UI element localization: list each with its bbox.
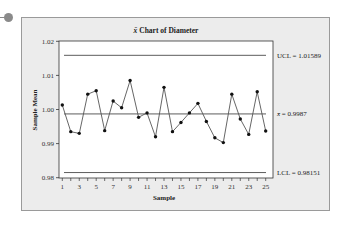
x-tick-label: 13 — [161, 183, 169, 191]
data-point — [95, 89, 98, 92]
data-point — [213, 136, 216, 139]
xbar-chart: x̄ Chart of Diameter 0.980.991.001.011.0… — [0, 0, 347, 225]
y-tick-label: 0.99 — [42, 140, 55, 148]
plot-area — [59, 41, 273, 178]
data-point — [137, 116, 140, 119]
x-tick-label: 7 — [111, 183, 115, 191]
data-point — [61, 103, 64, 106]
data-point — [188, 111, 191, 114]
xbar-symbol: x̄ — [133, 26, 138, 35]
x-tick-label: 5 — [94, 183, 98, 191]
y-axis: 0.980.991.001.011.02 — [42, 38, 59, 182]
x-tick-label: 3 — [78, 183, 82, 191]
x-tick-label: 9 — [128, 183, 132, 191]
x-tick-label: 17 — [194, 183, 202, 191]
data-point — [179, 121, 182, 124]
data-point — [111, 99, 114, 102]
data-point — [86, 92, 89, 95]
data-point — [239, 117, 242, 120]
data-point — [154, 135, 157, 138]
y-tick-label: 1.00 — [42, 106, 55, 114]
x-tick-label: 21 — [228, 183, 236, 191]
data-point — [145, 111, 148, 114]
data-point — [247, 133, 250, 136]
data-point — [69, 130, 72, 133]
data-point — [171, 130, 174, 133]
data-point — [222, 141, 225, 144]
data-point — [103, 129, 106, 132]
ucl-label: UCL = 1.01589 — [277, 52, 321, 60]
x-tick-label: 15 — [177, 183, 185, 191]
x-tick-label: 19 — [211, 183, 219, 191]
x-tick-label: 11 — [144, 183, 151, 191]
y-tick-label: 0.98 — [42, 174, 55, 182]
x-tick-label: 25 — [262, 183, 270, 191]
data-point — [162, 86, 165, 89]
data-point — [78, 132, 81, 135]
lcl-label: LCL = 0.98151 — [277, 169, 321, 177]
data-point — [256, 90, 259, 93]
data-point — [128, 79, 131, 82]
data-point — [196, 102, 199, 105]
y-tick-label: 1.02 — [42, 38, 55, 46]
y-tick-label: 1.01 — [42, 72, 55, 80]
chart-title: x̄ Chart of Diameter — [133, 26, 199, 35]
center-line-label: x̄ = 0.9987 — [276, 110, 307, 118]
data-point — [205, 120, 208, 123]
data-point — [264, 129, 267, 132]
x-axis: 135791113151719212325 — [61, 178, 270, 191]
y-axis-label: Sample Mean — [31, 89, 39, 130]
x-axis-label: Sample — [153, 194, 175, 202]
x-tick-label: 1 — [61, 183, 65, 191]
data-point — [120, 106, 123, 109]
x-tick-label: 23 — [245, 183, 253, 191]
data-point — [230, 92, 233, 95]
